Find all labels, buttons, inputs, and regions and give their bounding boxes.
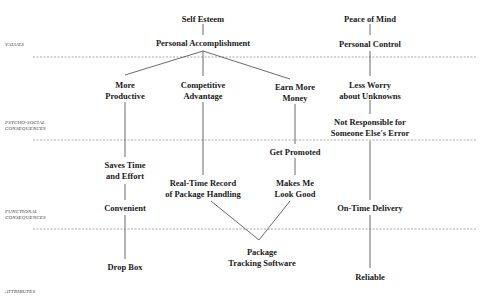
node-drop-box: Drop Box — [107, 262, 142, 273]
node-get-promoted: Get Promoted — [269, 147, 320, 158]
node-peace-of-mind: Peace of Mind — [344, 14, 396, 25]
connector-line — [125, 51, 203, 75]
node-personal-accomplishment: Personal Accomplishment — [156, 38, 250, 49]
node-more-productive: MoreProductive — [105, 80, 145, 102]
connector-line — [203, 51, 290, 79]
connector-line — [259, 201, 290, 240]
node-saves-time: Saves Timeand Effort — [104, 160, 145, 182]
node-less-worry: Less Worryabout Unknowns — [339, 80, 401, 102]
level-label-psycho: PSYCHO-SOCIAL CONSEQUENCES — [5, 120, 65, 132]
means-end-ladder-diagram: VALUESPSYCHO-SOCIAL CONSEQUENCESFUNCTION… — [0, 0, 489, 297]
node-self-esteem: Self Esteem — [182, 14, 224, 25]
node-makes-me-look-good: Makes MeLook Good — [275, 178, 316, 200]
level-label-values: VALUES — [5, 42, 65, 48]
node-reliable: Reliable — [355, 272, 385, 283]
connector-line — [211, 201, 259, 240]
node-not-responsible: Not Responsible forSomeone Else's Error — [331, 117, 410, 139]
node-package-tracking: PackageTracking Software — [228, 247, 295, 269]
node-on-time-delivery: On-Time Delivery — [337, 203, 403, 214]
node-convenient: Convenient — [104, 203, 146, 214]
node-earn-more-money: Earn MoreMoney — [275, 82, 315, 104]
node-personal-control: Personal Control — [339, 39, 401, 50]
node-competitive-advantage: CompetitiveAdvantage — [181, 80, 225, 102]
level-label-attributes: ATTRIBUTES — [5, 289, 65, 295]
level-label-functional: FUNCTIONAL CONSEQUENCES — [5, 209, 65, 221]
node-real-time-record: Real-Time Recordof Package Handling — [165, 178, 241, 200]
